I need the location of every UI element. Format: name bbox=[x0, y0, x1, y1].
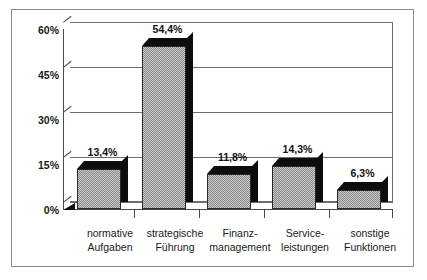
bar-column[interactable]: 13,4% bbox=[77, 22, 121, 209]
axis-depth-connector bbox=[63, 22, 72, 31]
y-axis-tick-label: 15% bbox=[38, 159, 59, 171]
bar-top-face bbox=[77, 161, 128, 169]
x-axis-line bbox=[63, 209, 393, 210]
bar-value-label: 54,4% bbox=[142, 23, 193, 35]
bar-top-face bbox=[207, 166, 258, 174]
plot-area: 13,4% 54,4% 11,8% 14,3% 6,3% bbox=[63, 22, 393, 209]
y-axis-tick-label: 30% bbox=[38, 114, 59, 126]
bar-side-face bbox=[316, 152, 323, 202]
x-axis-labels: normative Aufgaben strategische Führung … bbox=[63, 226, 403, 266]
bar-front-face bbox=[272, 166, 316, 209]
bar-column[interactable]: 54,4% bbox=[142, 22, 186, 209]
bar-value-label: 14,3% bbox=[272, 143, 323, 155]
chart-figure: 60% 45% 30% 15% 0% 13,4% bbox=[0, 0, 427, 280]
bar-top-face bbox=[142, 38, 193, 46]
bar-top-face bbox=[272, 158, 323, 166]
x-axis-category-line1: sonstige bbox=[316, 226, 424, 240]
bar-column[interactable]: 6,3% bbox=[337, 22, 381, 209]
bar-value-label: 6,3% bbox=[337, 167, 388, 179]
x-axis-tick bbox=[134, 210, 135, 218]
y-axis-tick-label: 60% bbox=[38, 24, 59, 36]
x-axis-tick bbox=[264, 210, 265, 218]
bar-top-face bbox=[337, 182, 388, 190]
x-axis-category-line2: Funktionen bbox=[316, 240, 424, 254]
bar-front-face bbox=[142, 46, 186, 209]
x-axis-tick bbox=[199, 210, 200, 218]
y-axis-tick-label: 0% bbox=[44, 204, 59, 216]
bar-column[interactable]: 11,8% bbox=[207, 22, 251, 209]
bar-value-label: 11,8% bbox=[207, 151, 258, 163]
bar-front-face bbox=[337, 190, 381, 209]
y-axis-tick-label: 45% bbox=[38, 69, 59, 81]
bar-front-face bbox=[207, 174, 251, 209]
x-axis-tick bbox=[329, 210, 330, 218]
bar-value-label: 13,4% bbox=[77, 146, 128, 158]
bar-side-face bbox=[121, 155, 128, 202]
bar-side-face bbox=[251, 160, 258, 202]
y-axis-labels: 60% 45% 30% 15% 0% bbox=[14, 22, 59, 212]
x-axis-tick bbox=[392, 210, 393, 218]
axis-depth-connector bbox=[63, 112, 72, 121]
bar-column[interactable]: 14,3% bbox=[272, 22, 316, 209]
bar-side-face bbox=[186, 32, 193, 202]
x-axis-category-label: sonstige Funktionen bbox=[316, 226, 424, 254]
bar-front-face bbox=[77, 169, 121, 209]
axis-depth-connector bbox=[63, 157, 72, 166]
axis-depth-connector bbox=[63, 67, 72, 76]
